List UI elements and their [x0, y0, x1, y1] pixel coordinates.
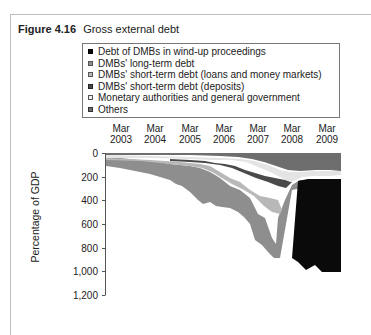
area-wind-up-debt — [292, 179, 341, 272]
y-axis — [102, 153, 106, 296]
